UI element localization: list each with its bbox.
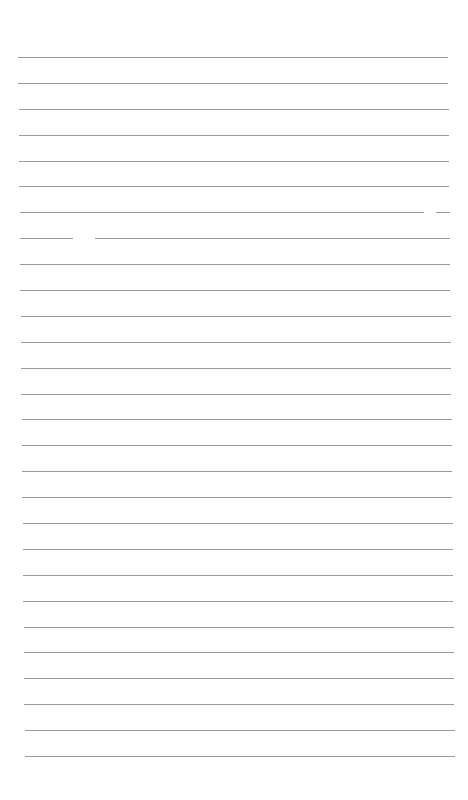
ruled-line bbox=[23, 601, 453, 602]
ruled-line bbox=[22, 445, 452, 446]
ruled-line bbox=[21, 368, 451, 369]
ruled-line bbox=[19, 186, 449, 187]
ruled-line bbox=[25, 756, 455, 757]
ruled-line bbox=[18, 83, 448, 84]
ruled-line bbox=[22, 419, 452, 420]
ruled-line bbox=[21, 316, 451, 317]
ruled-line bbox=[20, 264, 450, 265]
ruled-line bbox=[18, 57, 448, 58]
ruled-line bbox=[20, 212, 450, 213]
ruled-line bbox=[22, 497, 452, 498]
line-gap bbox=[73, 236, 95, 239]
ruled-line bbox=[23, 549, 453, 550]
ruled-line bbox=[21, 394, 451, 395]
ruled-line bbox=[19, 135, 449, 136]
line-gap bbox=[424, 210, 436, 213]
ruled-line bbox=[24, 652, 454, 653]
ruled-line bbox=[24, 704, 454, 705]
ruled-line bbox=[20, 290, 450, 291]
ruled-line bbox=[23, 523, 453, 524]
ruled-line bbox=[19, 109, 449, 110]
ruled-line bbox=[24, 678, 454, 679]
ruled-line bbox=[24, 627, 454, 628]
ruled-line bbox=[19, 161, 449, 162]
ruled-line bbox=[25, 730, 455, 731]
ruled-line bbox=[23, 575, 453, 576]
ruled-line bbox=[21, 342, 451, 343]
ruled-line bbox=[22, 471, 452, 472]
